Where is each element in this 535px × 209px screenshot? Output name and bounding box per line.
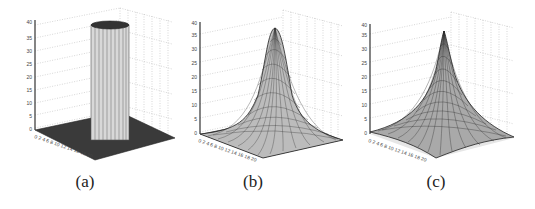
svg-text:25: 25 (191, 60, 197, 66)
svg-text:35: 35 (191, 32, 197, 38)
svg-text:15: 15 (361, 88, 367, 94)
svg-text:0: 0 (194, 130, 197, 136)
svg-text:35: 35 (26, 35, 32, 41)
panel-a: 0 5 10 15 20 25 30 35 40 0 2 4 6 8 10 12… (0, 0, 178, 209)
svg-text:5: 5 (29, 113, 32, 119)
svg-text:35: 35 (361, 32, 367, 38)
svg-text:25: 25 (26, 61, 32, 67)
panel-c: 0 5 10 15 20 25 30 35 40 0 2 4 6 8 10 12… (356, 0, 534, 209)
svg-text:0: 0 (364, 130, 367, 136)
svg-text:30: 30 (361, 46, 367, 52)
svg-text:0: 0 (29, 126, 32, 132)
svg-text:20: 20 (191, 74, 197, 80)
caption-b: (b) (223, 172, 283, 192)
svg-text:30: 30 (26, 48, 32, 54)
svg-text:40: 40 (361, 22, 367, 28)
svg-text:10: 10 (361, 102, 367, 108)
svg-text:15: 15 (191, 88, 197, 94)
svg-text:10: 10 (191, 102, 197, 108)
svg-text:15: 15 (26, 87, 32, 93)
svg-text:30: 30 (191, 46, 197, 52)
svg-text:20: 20 (26, 74, 32, 80)
cylinder-top (91, 21, 129, 29)
svg-text:25: 25 (361, 60, 367, 66)
svg-text:5: 5 (194, 116, 197, 122)
caption-c: (c) (406, 172, 466, 192)
caption-a: (a) (55, 172, 115, 192)
svg-text:40: 40 (191, 20, 197, 26)
svg-text:20: 20 (361, 74, 367, 80)
cylinder-body (91, 25, 129, 140)
svg-text:40: 40 (26, 19, 32, 25)
panel-b: 0 5 10 15 20 25 30 35 40 0 2 4 6 8 10 12… (178, 0, 356, 209)
svg-text:5: 5 (364, 116, 367, 122)
svg-text:10: 10 (26, 100, 32, 106)
